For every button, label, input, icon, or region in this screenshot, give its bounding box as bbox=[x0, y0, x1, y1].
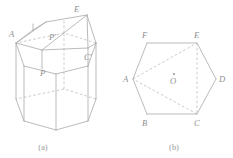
mid-edge-back-right bbox=[64, 33, 96, 43]
label-F: F bbox=[141, 30, 148, 40]
label-B: B bbox=[142, 118, 148, 128]
caption-figure-b: (b) bbox=[169, 143, 179, 152]
caption-figure-a: (a) bbox=[38, 143, 48, 152]
label-E: E bbox=[193, 30, 200, 40]
figure-b-group: O F E A D B C (b) bbox=[122, 30, 226, 152]
cut-edge-Cprime-up-to-E bbox=[87, 15, 88, 48]
label-O: O bbox=[170, 76, 176, 86]
label-P-prime: P′ bbox=[48, 32, 56, 42]
bottom-edge-front-right bbox=[88, 99, 96, 121]
hexagon-edge-ED bbox=[197, 43, 216, 79]
figures-svg: A E P′ C′ P (a) bbox=[0, 0, 233, 158]
roof-edge-right-upper bbox=[87, 15, 96, 43]
mid-edge-left bbox=[16, 43, 24, 66]
bottom-edge-back-right bbox=[64, 89, 96, 99]
label-C-prime: C′ bbox=[84, 52, 92, 62]
label-A: A bbox=[122, 74, 129, 84]
label-A: A bbox=[8, 29, 15, 39]
label-C: C bbox=[194, 118, 200, 128]
hexagon-edge-DC bbox=[197, 79, 216, 114]
triangle-edge-AE bbox=[133, 43, 197, 79]
figure-a-group: A E P′ C′ P (a) bbox=[8, 4, 96, 152]
cut-edge-A-to-front bbox=[16, 43, 42, 50]
hexagon-edge-BA bbox=[133, 79, 147, 114]
label-E-prime: E bbox=[73, 4, 80, 14]
cut-edge-front-to-Cprime bbox=[42, 48, 88, 50]
bottom-edge-front-left bbox=[16, 99, 24, 121]
bottom-edge-back-left bbox=[16, 89, 64, 99]
center-point-dot bbox=[173, 73, 175, 75]
hexagon-edge-AF bbox=[133, 43, 147, 79]
bottom-edge-front-center-right bbox=[56, 121, 88, 130]
label-P: P bbox=[39, 68, 46, 78]
roof-edge-top-left bbox=[33, 22, 46, 30]
prism-vertical-edges bbox=[16, 33, 96, 130]
label-D: D bbox=[218, 74, 226, 84]
cut-edge-E-to-back bbox=[46, 15, 87, 22]
figure-panel: A E P′ C′ P (a) bbox=[0, 0, 233, 158]
triangle-edge-CA bbox=[133, 79, 197, 114]
bottom-edge-front-center-left bbox=[24, 121, 56, 130]
mid-edge-front-right bbox=[56, 66, 88, 74]
